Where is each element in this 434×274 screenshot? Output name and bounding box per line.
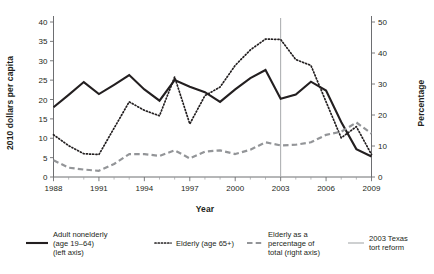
y-axis-left-tick-label: 0 (43, 173, 48, 182)
y-axis-left-tick-label: 10 (39, 134, 48, 143)
line-chart: 0510152025303540 01020304050 19881991199… (0, 0, 434, 274)
y-axis-left-tick-label: 35 (39, 37, 48, 46)
y-axis-left-tick-label: 25 (39, 76, 48, 85)
x-axis-title: Year (196, 204, 215, 214)
y-axis-right-title: Percentage (416, 79, 426, 126)
y-axis-left-tick-label: 15 (39, 115, 48, 124)
y-axis-left-tick-label: 20 (39, 96, 48, 105)
legend-label: total (right axis) (268, 248, 320, 257)
legend-label: tort reform (369, 243, 404, 252)
y-axis-right-tick-label: 10 (378, 142, 387, 151)
x-axis-tick-label: 2009 (363, 184, 381, 193)
legend-label: Elderly (age 65+) (176, 239, 235, 248)
legend-label: (age 19–64) (53, 239, 94, 248)
y-axis-right-tick-label: 20 (378, 111, 387, 120)
y-axis-right-tick-label: 40 (378, 49, 387, 58)
legend-label: 2003 Texas (369, 234, 408, 243)
x-axis-tick-label: 2006 (317, 184, 335, 193)
chart-figure: 0510152025303540 01020304050 19881991199… (0, 0, 434, 274)
x-axis-tick-label: 2003 (272, 184, 290, 193)
x-axis-tick-label: 2000 (226, 184, 244, 193)
legend-label: Adult nonelderly (53, 230, 108, 239)
y-axis-left-tick-label: 40 (39, 18, 48, 27)
x-axis-tick-label: 1994 (135, 184, 153, 193)
legend-label: Elderly as a (268, 230, 308, 239)
legend-label: (left axis) (53, 248, 84, 257)
legend-label: percentage of (268, 239, 315, 248)
y-axis-left-title: 2010 dollars per capita (5, 56, 15, 150)
y-axis-right-tick-label: 30 (378, 80, 387, 89)
x-axis-tick-label: 1997 (181, 184, 199, 193)
y-axis-left-tick-label: 30 (39, 57, 48, 66)
x-axis-tick-label: 1988 (45, 184, 63, 193)
x-axis-tick-label: 1991 (90, 184, 108, 193)
y-axis-left-tick-label: 5 (43, 154, 48, 163)
y-axis-right-tick-label: 0 (378, 173, 383, 182)
y-axis-right-tick-label: 50 (378, 18, 387, 27)
